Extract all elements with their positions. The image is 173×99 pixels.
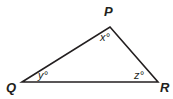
triangle-diagram: P Q R x° y° z°	[0, 0, 173, 99]
angle-label-q: y°	[37, 69, 49, 81]
vertex-label-q: Q	[6, 80, 16, 95]
vertex-label-p: P	[104, 4, 113, 19]
angle-label-p: x°	[99, 31, 111, 43]
vertex-label-r: R	[160, 80, 170, 95]
angle-label-r: z°	[133, 69, 145, 81]
